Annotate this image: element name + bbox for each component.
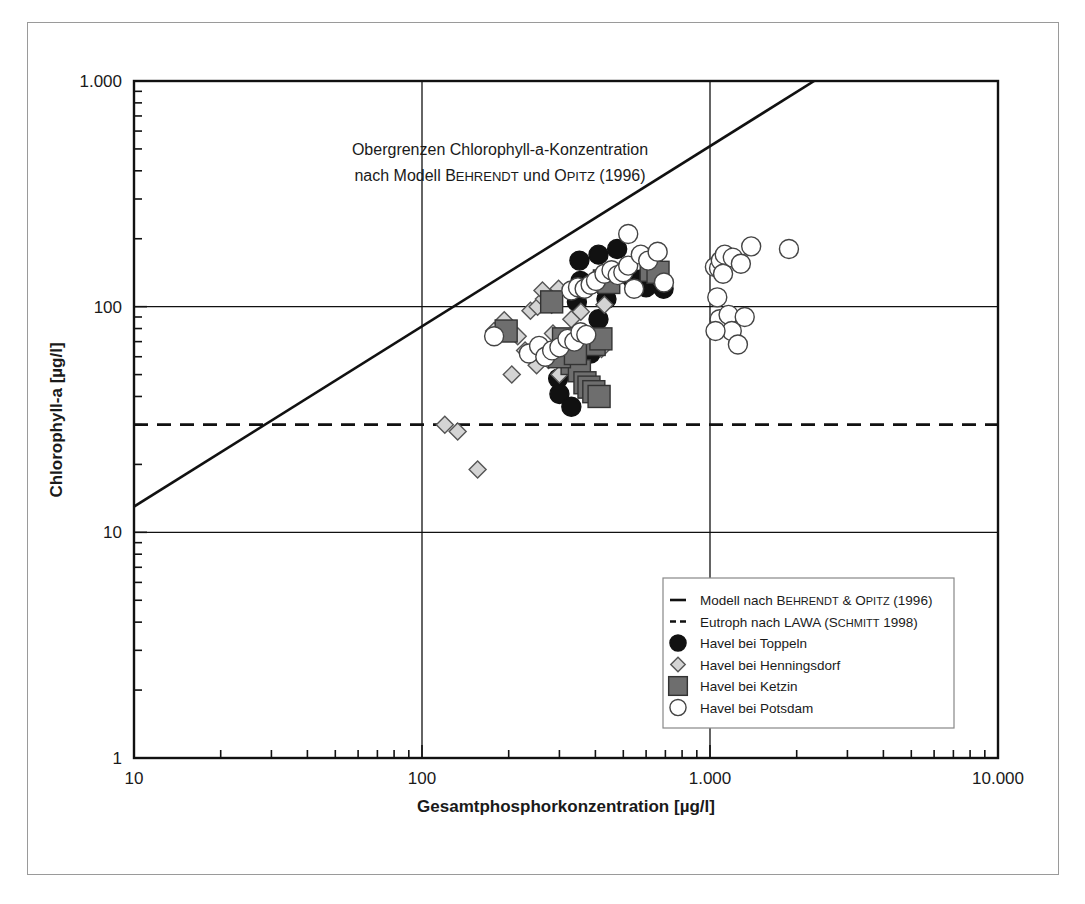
figure-root: 101001.00010.0001101001.000 Gesamtphosph… [0,0,1085,904]
series-group [485,224,799,366]
legend-swatch-circle-open [670,699,686,715]
anno-l2-sc1-rest: EHRENDT [456,169,519,184]
x-tick-label: 10.000 [972,769,1024,788]
legend-label: Eutroph nach LAWA (SCHMITT 1998) [700,615,918,630]
data-point [708,288,727,307]
anno-l2-a: nach Modell [354,167,445,184]
x-tick-label: 10 [125,769,144,788]
data-point [648,242,667,261]
anno-l2-sc1: B [445,167,456,184]
legend-label: Havel bei Potsdam [700,701,813,716]
data-point [742,237,761,256]
data-point [485,327,504,346]
data-point [541,291,563,313]
model-annotation: Obergrenzen Chlorophyll-a-Konzentration … [352,141,648,184]
x-tick-label: 100 [408,769,436,788]
y-tick-label: 1 [113,749,122,768]
y-tick-label: 10 [103,523,122,542]
data-point [469,461,486,478]
data-point [779,240,798,259]
annotation-line-2: nach Modell BEHRENDT und OPITZ (1996) [354,167,645,184]
data-point [728,335,747,354]
legend-label: Havel bei Ketzin [700,679,798,694]
anno-l2-sc2: O [554,167,566,184]
data-point [735,307,754,326]
y-tick-label: 1.000 [79,72,122,91]
legend-label: Modell nach BEHRENDT & OPITZ (1996) [700,593,932,608]
data-markers [436,224,798,477]
anno-l2-sc2-rest: PITZ [567,169,595,184]
data-point [570,251,589,270]
data-point [706,322,725,341]
anno-l2-c: (1996) [595,167,646,184]
legend-label: Havel bei Henningsdorf [700,658,841,673]
data-point [503,366,520,383]
x-tick-label: 1.000 [689,769,732,788]
y-tick-label: 100 [94,298,122,317]
data-point [588,385,610,407]
data-point [589,245,608,264]
annotation-line-1: Obergrenzen Chlorophyll-a-Konzentration [352,141,648,158]
data-point [731,254,750,273]
anno-l2-b: und [519,167,555,184]
data-point [577,325,596,344]
data-point [625,279,644,298]
data-point [562,397,581,416]
y-axis-title: Chlorophyll-a [µg/l] [47,342,66,497]
data-point [654,273,673,292]
legend-label: Havel bei Toppeln [700,636,807,651]
x-axis-title: Gesamtphosphorkonzentration [µg/l] [417,797,715,816]
legend-swatch-square [669,677,688,696]
data-point [619,224,638,243]
chart-legend: Modell nach BEHRENDT & OPITZ (1996)Eutro… [663,578,954,728]
scatter-chart: 101001.00010.0001101001.000 Gesamtphosph… [0,0,1085,904]
legend-swatch-circle-filled [670,635,686,651]
